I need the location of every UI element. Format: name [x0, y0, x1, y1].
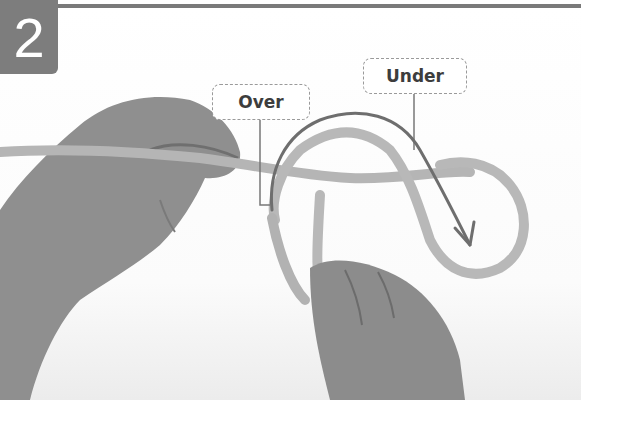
- step-number: 2: [13, 10, 44, 66]
- callout-under-label: Under: [386, 66, 444, 86]
- callout-over: Over: [212, 84, 310, 120]
- left-hand: [0, 97, 240, 400]
- rope-loop: [274, 132, 524, 273]
- step-number-badge: 2: [0, 0, 58, 74]
- callout-under: Under: [363, 58, 467, 94]
- knot-illustration: [0, 8, 581, 400]
- instruction-photo: Over Under: [0, 8, 581, 400]
- right-hand: [310, 261, 465, 400]
- callout-over-label: Over: [238, 92, 283, 112]
- rope-working-end: [272, 218, 305, 300]
